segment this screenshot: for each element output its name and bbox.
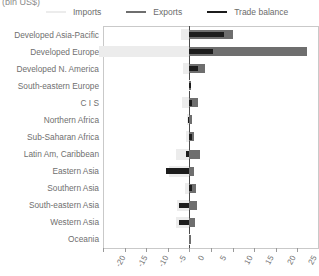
category-label: Sub-Saharan Africa: [0, 133, 99, 141]
axis-tick: [168, 248, 169, 252]
bar-trade-balance: [189, 100, 192, 106]
plot-area: [103, 26, 319, 248]
category-label: South-eastern Europe: [0, 82, 99, 90]
legend-swatch-icon: [46, 11, 66, 14]
chart-row: [103, 94, 319, 111]
chart-row: [103, 197, 319, 214]
legend-label: Imports: [73, 8, 101, 17]
bar-trade-balance: [166, 168, 190, 174]
category-label: Developed Asia-Pacific: [0, 31, 99, 39]
legend-swatch-icon: [126, 11, 146, 14]
axis-tick: [297, 248, 298, 252]
legend-label: Trade balance: [234, 8, 288, 17]
axis-tick-label: 5: [218, 254, 228, 262]
bar-imports: [99, 46, 190, 57]
chart-row: [103, 128, 319, 145]
axis-tick: [103, 248, 104, 252]
axis-tick: [276, 248, 277, 252]
axis-tick: [189, 248, 190, 252]
bar-trade-balance: [189, 134, 192, 140]
axis-tick-label: 20: [285, 254, 297, 266]
trade-balance-bar-chart: (bln US$) ImportsExportsTrade balance De…: [0, 0, 319, 276]
axis-tick-label: 25: [307, 254, 319, 266]
bar-exports: [189, 167, 194, 176]
axis-tick-label: 10: [242, 254, 254, 266]
chart-row: [103, 111, 319, 128]
axis-tick-label: 15: [264, 254, 276, 266]
bar-exports: [189, 150, 199, 159]
bar-trade-balance: [189, 49, 213, 55]
bar-imports: [182, 97, 189, 108]
category-label: Southern Asia: [0, 184, 99, 192]
axis-tick: [211, 248, 212, 252]
bar-imports: [181, 29, 190, 40]
chart-row: [103, 43, 319, 60]
chart-units-title: (bln US$): [2, 0, 40, 7]
bar-trade-balance: [189, 66, 198, 72]
bar-trade-balance: [179, 220, 190, 226]
bar-exports: [189, 201, 197, 210]
bar-trade-balance: [189, 185, 192, 191]
bar-trade-balance: [188, 117, 189, 123]
axis-tick: [146, 248, 147, 252]
category-label: Developed N. America: [0, 65, 99, 73]
chart-row: [103, 60, 319, 77]
chart-row: [103, 77, 319, 94]
legend-exports[interactable]: Exports: [126, 8, 182, 17]
category-label: Latin Am, Caribbean: [0, 150, 99, 158]
category-label: Eastern Asia: [0, 167, 99, 175]
axis-tick: [125, 248, 126, 252]
legend-trade-balance[interactable]: Trade balance: [207, 8, 288, 17]
chart-row: [103, 163, 319, 180]
axis-tick-label: -5: [176, 254, 187, 265]
category-label: C I S: [0, 99, 99, 107]
category-label: Western Asia: [0, 218, 99, 226]
category-label: Oceania: [0, 235, 99, 243]
bar-trade-balance: [189, 32, 224, 38]
chart-row: [103, 214, 319, 231]
chart-row: [103, 26, 319, 43]
axis-tick: [233, 248, 234, 252]
bar-exports: [189, 115, 191, 124]
category-axis-labels: Developed Asia-PacificDeveloped EuropeDe…: [0, 26, 99, 248]
axis-tick-label: 0: [197, 254, 207, 262]
bar-exports: [189, 235, 190, 244]
chart-row: [103, 180, 319, 197]
axis-tick: [254, 248, 255, 252]
legend-label: Exports: [153, 8, 182, 17]
bar-trade-balance: [189, 83, 190, 89]
legend-imports[interactable]: Imports: [46, 8, 101, 17]
bar-exports: [189, 218, 195, 227]
chart-row: [103, 231, 319, 248]
axis-tick-label: -10: [157, 254, 171, 269]
legend-swatch-icon: [207, 11, 227, 14]
chart-row: [103, 146, 319, 163]
bar-imports: [183, 63, 189, 74]
category-label: Developed Europe: [0, 48, 99, 56]
category-label: South-eastern Asia: [0, 201, 99, 209]
chart-legend: ImportsExportsTrade balance: [46, 5, 288, 19]
value-axis: -20-15-10-5051015202530: [103, 248, 319, 276]
bar-trade-balance: [186, 151, 189, 157]
category-label: Northern Africa: [0, 116, 99, 124]
bar-trade-balance: [179, 203, 189, 209]
axis-tick-label: -20: [114, 254, 128, 269]
axis-tick-label: -15: [135, 254, 149, 269]
